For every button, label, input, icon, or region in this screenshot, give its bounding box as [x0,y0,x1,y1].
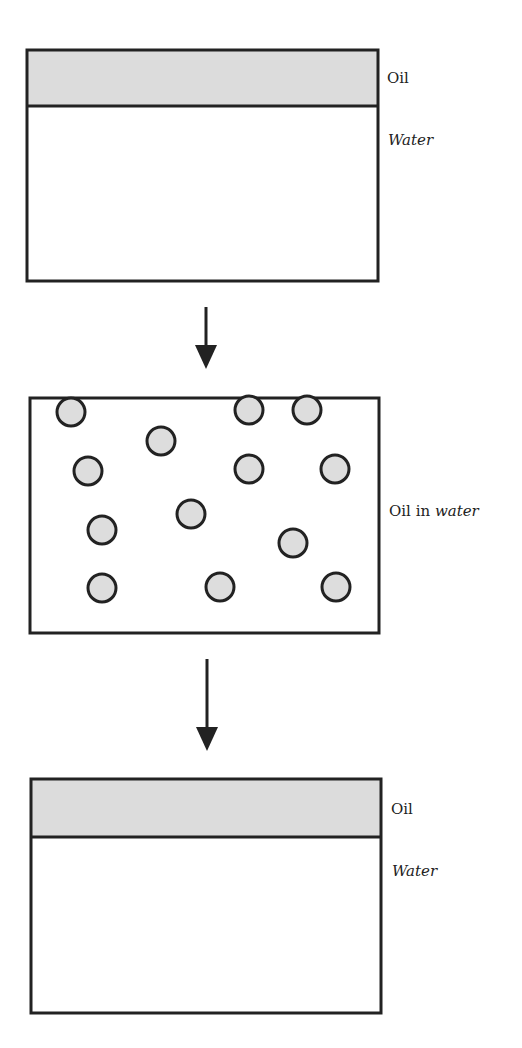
stage1-water-label: Water [388,131,433,149]
stage3-water-label: Water [392,862,437,880]
stage2-label: Oil in water [389,502,479,520]
stage3-oil-layer [31,779,381,837]
oil-droplet [293,396,321,424]
stage2-label-prefix: Oil in [389,502,435,520]
arrow-down-icon [196,659,218,751]
stage1-container [27,50,378,281]
oil-droplet [57,398,85,426]
oil-droplet [147,427,175,455]
oil-droplet [322,573,350,601]
stage3-oil-label: Oil [391,800,413,818]
stage3-container [31,779,381,1013]
oil-droplet [74,457,102,485]
oil-droplet [321,455,349,483]
oil-droplet [206,573,234,601]
stage2-label-italic: water [435,502,479,520]
oil-droplets [57,396,350,602]
stage2-container [30,396,379,633]
stage1-oil-layer [27,50,378,106]
oil-droplet [235,455,263,483]
arrow-down-icon [195,307,217,369]
oil-droplet [88,516,116,544]
oil-droplet [177,500,205,528]
stage1-oil-label: Oil [387,69,409,87]
oil-droplet [88,574,116,602]
oil-droplet [235,396,263,424]
oil-droplet [279,529,307,557]
emulsion-diagram [0,0,522,1048]
